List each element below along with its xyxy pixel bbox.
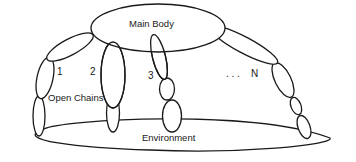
open-chains-label: Open Chains [48, 92, 104, 103]
chain-3-link-base [163, 100, 182, 132]
chain-2-number: 2 [90, 66, 96, 77]
open-chain-2 [101, 42, 125, 132]
chain-3-number: 3 [148, 70, 154, 81]
environment-label: Environment [142, 132, 196, 143]
chain-n-number: N [251, 68, 258, 79]
chain-1-number: 1 [57, 66, 63, 77]
main-body-label: Main Body [129, 18, 174, 29]
open-chain-1 [33, 28, 97, 136]
chain-1-link-top [43, 28, 96, 67]
chain-1-link-base [33, 96, 45, 136]
chain-3-link-mid [160, 78, 175, 100]
chain-n-link-2 [267, 59, 298, 100]
ellipsis-label: . . . [226, 68, 240, 79]
multibody-diagram: Main Body Environment Open Chains 1 2 3 … [0, 0, 356, 162]
chain-n-link-3 [288, 96, 304, 116]
